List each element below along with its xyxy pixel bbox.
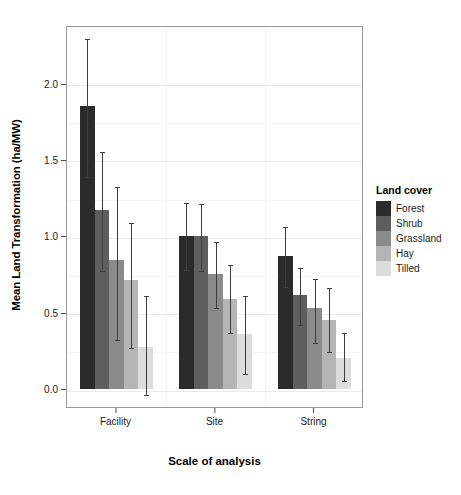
error-bar-cap-upper <box>115 187 120 188</box>
legend-label: Hay <box>396 248 414 259</box>
error-bar-cap-lower <box>85 177 90 178</box>
error-bar <box>131 223 132 348</box>
error-bar-cap-lower <box>283 287 288 288</box>
error-bar <box>329 288 330 352</box>
error-bar <box>201 204 202 271</box>
error-bar-cap-lower <box>129 348 134 349</box>
legend-item[interactable]: Grassland <box>376 231 460 246</box>
error-bar-cap-lower <box>342 381 347 382</box>
error-bar <box>230 265 231 332</box>
error-bar-cap-upper <box>85 39 90 40</box>
error-bar-cap-lower <box>184 270 189 271</box>
y-axis-tick-label: 0.5 <box>44 308 61 319</box>
error-bar <box>216 242 217 308</box>
error-bar-cap-lower <box>115 340 120 341</box>
legend-title: Land cover <box>376 184 460 196</box>
plot-area <box>67 27 362 407</box>
error-bar <box>117 187 118 340</box>
error-bar-cap-upper <box>243 296 248 297</box>
legend-swatch <box>376 216 391 231</box>
error-bar <box>344 333 345 382</box>
y-axis-tick-label: 0.0 <box>44 384 61 395</box>
error-bar <box>285 227 286 287</box>
error-bar-cap-upper <box>313 279 318 280</box>
x-axis-tick-label: Site <box>206 416 223 427</box>
x-axis-tick-mark <box>214 408 215 413</box>
legend-swatch <box>376 231 391 246</box>
error-bar-cap-upper <box>283 227 288 228</box>
error-bar-cap-lower <box>199 271 204 272</box>
error-bar-cap-upper <box>199 204 204 205</box>
legend-item[interactable]: Forest <box>376 201 460 216</box>
legend-swatch <box>376 246 391 261</box>
x-axis-tick-mark <box>115 408 116 413</box>
y-axis: 0.00.51.01.52.0 <box>0 0 66 495</box>
error-bar-cap-upper <box>298 268 303 269</box>
plot-panel <box>66 26 363 408</box>
legend-label: Grassland <box>396 233 442 244</box>
x-axis: FacilitySiteString <box>66 408 363 448</box>
error-bar-cap-upper <box>100 152 105 153</box>
error-bar <box>245 296 246 374</box>
x-axis-title: Scale of analysis <box>66 455 363 467</box>
legend-swatch <box>376 261 391 276</box>
x-axis-tick: String <box>300 408 326 427</box>
error-bar <box>300 268 301 325</box>
error-bar <box>102 152 103 271</box>
error-bar-cap-lower <box>214 308 219 309</box>
error-bar-cap-lower <box>100 271 105 272</box>
legend-item[interactable]: Hay <box>376 246 460 261</box>
error-bar <box>87 39 88 177</box>
x-axis-tick-label: String <box>300 416 326 427</box>
legend-label: Forest <box>396 203 424 214</box>
y-axis-tick-label: 2.0 <box>44 79 61 90</box>
x-axis-tick-mark <box>313 408 314 413</box>
error-bar-cap-upper <box>214 242 219 243</box>
error-bar-cap-lower <box>228 333 233 334</box>
legend: Land cover ForestShrubGrasslandHayTilled <box>376 184 460 276</box>
chart-figure: Mean Land Transformation (ha/MW) 0.00.51… <box>0 0 461 495</box>
legend-item[interactable]: Tilled <box>376 261 460 276</box>
error-bar <box>146 296 147 395</box>
x-axis-tick: Site <box>206 408 223 427</box>
legend-item[interactable]: Shrub <box>376 216 460 231</box>
error-bar-cap-lower <box>327 352 332 353</box>
y-axis-tick-label: 1.0 <box>44 231 61 242</box>
error-bar-cap-upper <box>327 288 332 289</box>
error-bar-cap-upper <box>184 203 189 204</box>
error-bar <box>186 203 187 270</box>
error-bar-cap-lower <box>313 343 318 344</box>
error-bar <box>315 279 316 343</box>
legend-label: Shrub <box>396 218 423 229</box>
error-bar-cap-upper <box>228 265 233 266</box>
error-bar-cap-lower <box>243 374 248 375</box>
y-axis-tick-label: 1.5 <box>44 155 61 166</box>
x-axis-tick: Facility <box>100 408 131 427</box>
error-bar-cap-lower <box>144 395 149 396</box>
legend-label: Tilled <box>396 263 420 274</box>
error-bar-cap-upper <box>342 333 347 334</box>
error-bar-cap-lower <box>298 325 303 326</box>
error-bar-cap-upper <box>144 296 149 297</box>
legend-entries: ForestShrubGrasslandHayTilled <box>376 201 460 276</box>
error-bar-cap-upper <box>129 223 134 224</box>
legend-swatch <box>376 201 391 216</box>
x-axis-tick-label: Facility <box>100 416 131 427</box>
